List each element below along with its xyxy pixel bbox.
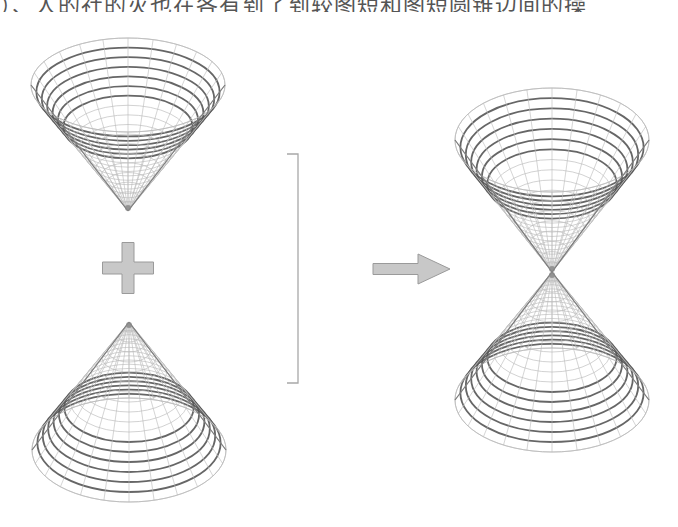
right-arrow-icon bbox=[373, 254, 450, 284]
cone-diagram bbox=[0, 0, 678, 527]
cone-left-bottom bbox=[32, 322, 226, 502]
double-cone-upper bbox=[455, 88, 649, 272]
double-cone-lower bbox=[455, 272, 649, 452]
right-bracket bbox=[287, 154, 298, 383]
plus-icon bbox=[103, 243, 154, 294]
cone-left-top bbox=[31, 38, 225, 211]
